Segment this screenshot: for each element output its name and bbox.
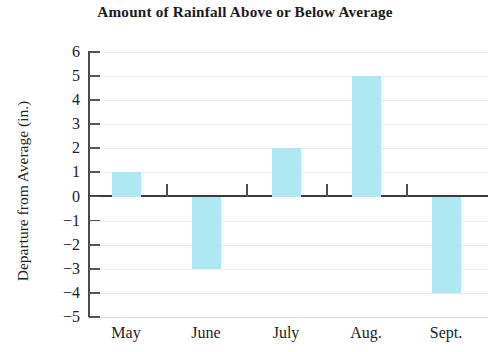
chart-title: Amount of Rainfall Above or Below Averag… — [0, 3, 490, 21]
y-axis-tick-label: 2 — [34, 140, 80, 156]
gridline — [88, 52, 488, 53]
x-axis-tick-label: May — [81, 325, 171, 341]
bar-may — [112, 172, 141, 196]
y-axis-tick-label: 1 — [34, 164, 80, 180]
plot-bottom-border — [88, 317, 488, 318]
y-axis-title: Departure from Average (in.) — [14, 51, 32, 331]
y-axis-tick — [89, 268, 100, 270]
bar-sept — [432, 197, 461, 293]
y-axis-tick-label: 5 — [34, 68, 80, 84]
x-axis-tick-label: June — [161, 325, 251, 341]
gridline — [88, 76, 488, 77]
gridline — [88, 293, 488, 294]
gridline — [88, 124, 488, 125]
y-axis-line — [88, 51, 90, 318]
y-axis-tick — [89, 292, 100, 294]
y-axis-tick — [89, 147, 100, 149]
bar-aug — [352, 76, 381, 196]
y-axis-tick-label: 4 — [34, 92, 80, 108]
x-axis-tick — [166, 184, 168, 197]
y-axis-tick — [89, 51, 100, 53]
x-axis-tick-label: July — [241, 325, 331, 341]
x-axis-tick-label: Aug. — [321, 325, 411, 341]
gridline — [88, 100, 488, 101]
y-axis-tick — [89, 220, 100, 222]
x-axis-tick — [246, 184, 248, 197]
y-axis-tick-label: −2 — [34, 237, 80, 253]
x-axis-tick — [406, 184, 408, 197]
bar-july — [272, 148, 301, 196]
y-axis-tick — [89, 75, 100, 77]
y-axis-tick — [89, 123, 100, 125]
y-axis-tick-label: 0 — [34, 189, 80, 205]
y-axis-tick-label: −1 — [34, 213, 80, 229]
y-axis-tick-label: −5 — [34, 309, 80, 325]
y-axis-tick — [89, 316, 100, 318]
y-axis-tick-label: 3 — [34, 116, 80, 132]
gridline — [88, 221, 488, 222]
gridline — [88, 245, 488, 246]
bar-june — [192, 197, 221, 269]
y-axis-tick-label: −3 — [34, 261, 80, 277]
x-axis-tick — [326, 184, 328, 197]
y-axis-tick — [89, 244, 100, 246]
y-axis-tick — [89, 196, 100, 198]
y-axis-tick-label: −4 — [34, 285, 80, 301]
y-axis-tick — [89, 99, 100, 101]
y-axis-tick-label: 6 — [34, 44, 80, 60]
gridline — [88, 269, 488, 270]
x-axis-tick-label: Sept. — [401, 325, 490, 341]
y-axis-tick — [89, 171, 100, 173]
